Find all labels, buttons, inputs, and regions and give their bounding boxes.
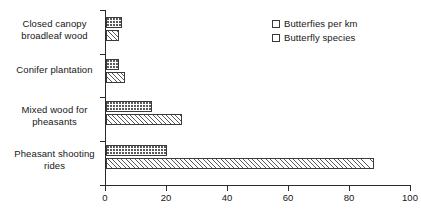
category-label-pheasant-shooting-rides: Pheasant shooting rides (4, 148, 105, 171)
x-axis-tick (349, 186, 350, 191)
category-label-line: Closed canopy (4, 18, 105, 30)
x-axis-tick-label: 80 (334, 192, 364, 203)
category-label-line: Mixed wood for (4, 104, 105, 116)
category-label-mixed-wood-for-pheasants: Mixed wood for pheasants (4, 104, 105, 127)
bar-conifer-plantation-butterfies-per-km (106, 72, 125, 83)
x-axis-tick (410, 186, 411, 191)
y-axis-tick (100, 54, 105, 55)
legend-item-butterfly-species: Butterfly species (272, 31, 358, 44)
x-axis-tick (227, 186, 228, 191)
bar-pheasant-shooting-rides-butterfies-per-km (106, 158, 374, 169)
legend-item-butterfies-per-km: Butterfies per km (272, 17, 358, 30)
bar-conifer-plantation-butterfly-species (106, 59, 119, 70)
x-axis-tick-label: 40 (212, 192, 242, 203)
category-label-line: Pheasant shooting (4, 148, 105, 160)
category-label-line: pheasants (4, 116, 105, 128)
bar-mixed-wood-for-pheasants-butterfly-species (106, 101, 152, 112)
legend-label: Butterfly species (284, 32, 355, 43)
bar-pheasant-shooting-rides-butterfly-species (106, 145, 167, 156)
category-label-line: rides (4, 160, 105, 172)
category-label-line: Conifer plantation (4, 64, 105, 76)
y-axis-line (105, 10, 106, 186)
x-axis-tick-label: 0 (90, 192, 120, 203)
x-axis-line (105, 185, 411, 186)
y-axis-tick (100, 10, 105, 11)
x-axis-tick (166, 186, 167, 191)
y-axis-tick (100, 97, 105, 98)
y-axis-tick (100, 141, 105, 142)
x-axis-tick-label: 20 (151, 192, 181, 203)
legend-swatch-dots-icon (272, 34, 280, 42)
x-axis-tick (105, 186, 106, 191)
category-label-line: broadleaf wood (4, 30, 105, 42)
bar-closed-canopy-broadleaf-wood-butterfly-species (106, 17, 122, 28)
butterfly-habitat-bar-chart: Closed canopy broadleaf wood Conifer pla… (0, 0, 421, 209)
category-label-closed-canopy-broadleaf-wood: Closed canopy broadleaf wood (4, 18, 105, 41)
x-axis-tick-label: 100 (395, 192, 421, 203)
x-axis-tick (288, 186, 289, 191)
x-axis-tick-label: 60 (273, 192, 303, 203)
bar-closed-canopy-broadleaf-wood-butterfies-per-km (106, 30, 119, 41)
category-label-conifer-plantation: Conifer plantation (4, 64, 105, 76)
legend: Butterfies per km Butterfly species (272, 17, 358, 45)
bar-mixed-wood-for-pheasants-butterfies-per-km (106, 114, 182, 125)
legend-swatch-hatch-icon (272, 20, 280, 28)
legend-label: Butterfies per km (284, 18, 358, 29)
